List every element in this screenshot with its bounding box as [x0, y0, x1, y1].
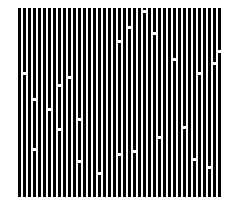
- stripe-bar: [218, 8, 221, 197]
- gap-dash: [153, 32, 156, 35]
- gap-dash: [158, 136, 161, 139]
- stripe-bar: [193, 8, 196, 197]
- stripe-bar: [213, 8, 216, 197]
- gap-dash: [23, 72, 26, 75]
- stripe-bar: [63, 8, 66, 197]
- gap-dash: [78, 118, 81, 121]
- gap-dash: [98, 172, 101, 175]
- gap-dash: [118, 40, 121, 43]
- gap-dash: [128, 26, 131, 29]
- stripe-bar: [53, 8, 56, 197]
- gap-dash: [68, 76, 71, 79]
- stripe-bar: [168, 8, 171, 197]
- stripe-bar: [68, 8, 71, 197]
- gap-dash: [58, 128, 61, 131]
- stripe-bar: [43, 8, 46, 197]
- stripe-bar: [58, 8, 61, 197]
- stripe-bar: [108, 8, 111, 197]
- gap-dash: [143, 10, 146, 13]
- stripe-bar: [78, 8, 81, 197]
- gap-dash: [118, 153, 121, 156]
- stripe-bar: [188, 8, 191, 197]
- stripe-bar: [123, 8, 126, 197]
- stripe-bar: [73, 8, 76, 197]
- stripe-bar: [88, 8, 91, 197]
- stripe-bar: [18, 8, 21, 197]
- stripe-bar: [28, 8, 31, 197]
- gap-dash: [198, 72, 201, 75]
- gap-dash: [208, 166, 211, 169]
- stripe-bar: [173, 8, 176, 197]
- stripe-bar: [143, 8, 146, 197]
- stripe-bar: [83, 8, 86, 197]
- gap-dash: [48, 108, 51, 111]
- gap-dash: [78, 160, 81, 163]
- gap-dash: [218, 50, 221, 53]
- stripe-bar: [128, 8, 131, 197]
- stripe-bar: [38, 8, 41, 197]
- gap-dash: [183, 126, 186, 129]
- stripe-bar: [113, 8, 116, 197]
- stripe-bar: [198, 8, 201, 197]
- stripe-bar: [183, 8, 186, 197]
- stripe-bar: [118, 8, 121, 197]
- stripe-bar: [163, 8, 166, 197]
- stripe-bar: [98, 8, 101, 197]
- gap-dash: [33, 148, 36, 151]
- stripe-bar: [23, 8, 26, 197]
- gap-dash: [133, 150, 136, 153]
- stripe-bar: [103, 8, 106, 197]
- stripe-bar: [33, 8, 36, 197]
- stripe-bar: [158, 8, 161, 197]
- stripe-bar: [203, 8, 206, 197]
- stripe-bar: [93, 8, 96, 197]
- stripe-bar: [148, 8, 151, 197]
- gap-dash: [173, 58, 176, 61]
- striped-pattern: [18, 8, 220, 197]
- stripe-bar: [153, 8, 156, 197]
- gap-dash: [58, 84, 61, 87]
- stripe-bar: [178, 8, 181, 197]
- stripe-bar: [138, 8, 141, 197]
- stripe-bar: [48, 8, 51, 197]
- gap-dash: [213, 62, 216, 65]
- stripe-bar: [133, 8, 136, 197]
- gap-dash: [33, 98, 36, 101]
- gap-dash: [193, 158, 196, 161]
